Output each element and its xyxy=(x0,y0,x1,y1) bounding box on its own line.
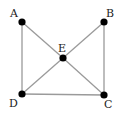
edge-a-e xyxy=(22,22,63,58)
edge-e-c xyxy=(63,58,104,95)
edge-e-d xyxy=(22,58,63,94)
node-label-c: C xyxy=(104,98,112,111)
node-label-e: E xyxy=(58,42,66,55)
edge-b-e xyxy=(63,22,104,58)
graph-diagram: A B C D E xyxy=(0,0,121,114)
edge-d-c xyxy=(22,94,104,95)
node-label-d: D xyxy=(9,97,18,110)
node-e xyxy=(59,54,66,61)
node-label-b: B xyxy=(106,7,114,20)
node-d xyxy=(18,90,25,97)
node-label-a: A xyxy=(9,7,19,20)
node-a xyxy=(18,18,25,25)
